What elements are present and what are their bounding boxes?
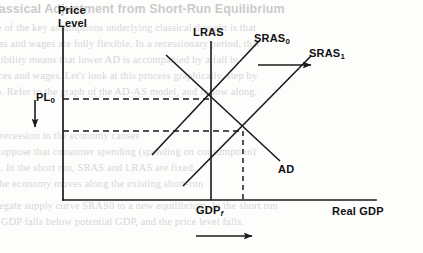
ad-label-text: AD (278, 163, 294, 175)
y-axis-label-line2: Level (58, 17, 87, 29)
lras-label: LRAS (193, 26, 224, 38)
sras0-label-sub: 0 (285, 37, 290, 46)
sras1-label-sub: 1 (340, 52, 345, 61)
sras0-label: SRAS0 (254, 32, 290, 44)
x-axis-label-text: Real GDP (332, 205, 384, 217)
gdpf-label: GDPf (196, 204, 223, 216)
y-axis-label-line1: Price (58, 4, 86, 16)
lras-label-text: LRAS (193, 26, 224, 38)
sras0-curve (152, 41, 259, 155)
gdpf-label-sub: f (220, 209, 223, 218)
pl0-label-sub: 0 (50, 96, 55, 105)
pl0-label: PL0 (36, 91, 55, 103)
diagram-page: Classical Adjustment from Short-Run Equi… (0, 0, 423, 253)
x-axis-label: Real GDP (332, 205, 384, 217)
gdpf-label-text: GDP (196, 204, 220, 216)
sras1-label-text: SRAS (309, 47, 340, 59)
ad-label: AD (278, 163, 294, 175)
y-axis-label: Price Level (58, 4, 87, 29)
sras1-label: SRAS1 (309, 47, 345, 59)
pl0-label-text: PL (36, 91, 50, 103)
sras0-label-text: SRAS (254, 32, 285, 44)
